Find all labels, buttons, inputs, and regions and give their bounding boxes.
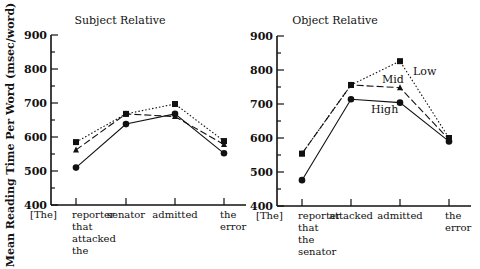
circle-marker [123, 121, 130, 128]
series-annotation-mid: Mid [382, 73, 404, 86]
square-marker [172, 101, 178, 107]
series-annotation-low: Low [413, 65, 437, 78]
x-tick-label: senator [298, 246, 336, 257]
x-tick-label: error [445, 222, 471, 233]
x-prefix-label: [The] [256, 210, 283, 221]
circle-marker [348, 96, 355, 103]
series-line-low [76, 104, 224, 142]
x-tick-label: admitted [377, 210, 423, 221]
y-tick-label: 500 [250, 166, 273, 179]
y-tick-label: 900 [24, 29, 47, 42]
x-tick-label: error [220, 221, 246, 232]
subject-relative-panel: Subject Relative400500600700800900[The]r… [24, 14, 246, 256]
circle-marker [446, 138, 453, 145]
chart-title: Subject Relative [74, 14, 165, 27]
y-tick-label: 800 [24, 63, 47, 76]
object-relative-panel: Object Relative400500600700800900[The]re… [250, 14, 471, 257]
circle-marker [73, 164, 80, 171]
x-tick-label: admitted [152, 209, 198, 220]
x-tick-label: attacked [72, 233, 117, 244]
y-tick-label: 700 [250, 98, 273, 111]
y-tick-label: 600 [250, 132, 273, 145]
series-line-high [76, 114, 224, 168]
x-tick-label: attacked [329, 210, 374, 221]
x-tick-label: senator [107, 209, 145, 220]
chart-title: Object Relative [292, 14, 378, 27]
circle-marker [172, 111, 179, 118]
x-tick-label: the [298, 234, 314, 245]
y-tick-label: 500 [24, 165, 47, 178]
square-marker [397, 58, 403, 64]
y-tick-label: 800 [250, 64, 273, 77]
x-tick-label: the [72, 245, 88, 256]
series-annotation-high: High [371, 103, 398, 116]
x-tick-label: that [298, 222, 318, 233]
triangle-marker [73, 146, 79, 152]
y-tick-label: 700 [24, 97, 47, 110]
y-tick-label: 600 [24, 131, 47, 144]
circle-marker [221, 150, 228, 157]
circle-marker [299, 177, 306, 184]
x-tick-label: the [220, 209, 236, 220]
y-axis-label: Mean Reading Time Per Word (msec/word) [4, 3, 17, 268]
x-tick-label: the [445, 210, 461, 221]
x-tick-label: that [72, 221, 92, 232]
reading-time-charts: Mean Reading Time Per Word (msec/word) S… [0, 0, 480, 269]
square-marker [73, 139, 79, 145]
y-tick-label: 900 [250, 30, 273, 43]
x-prefix-label: [The] [30, 209, 57, 220]
